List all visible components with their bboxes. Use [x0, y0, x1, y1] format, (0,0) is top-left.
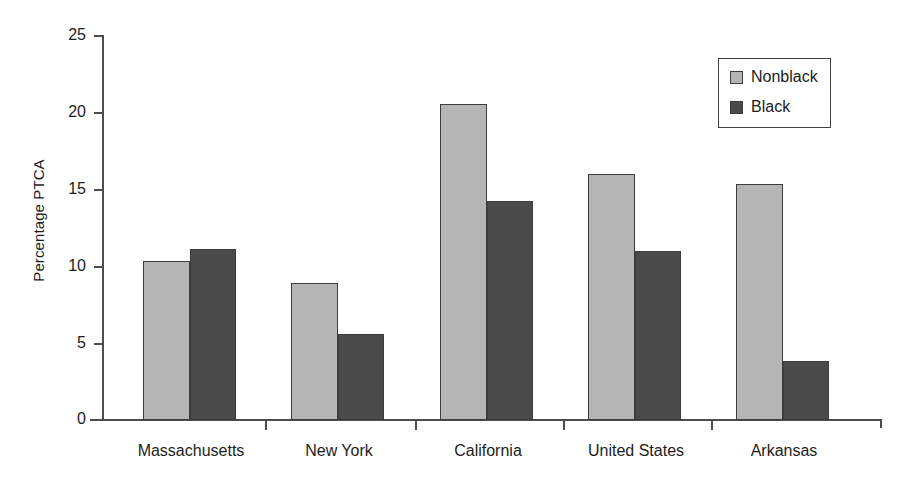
y-tick-label-5: 5: [48, 335, 86, 351]
y-tick-label-25: 25: [48, 27, 86, 43]
bar-california-black: [487, 201, 533, 420]
legend-item-black: Black: [730, 99, 790, 115]
legend-swatch-nonblack-icon: [730, 71, 743, 84]
y-tick-10: [94, 266, 103, 268]
legend-item-nonblack: Nonblack: [730, 69, 818, 85]
x-label-massachusetts: Massachusetts: [108, 442, 274, 460]
legend-label-black: Black: [751, 99, 790, 115]
x-tick-separator-1: [265, 421, 267, 430]
y-tick-label-10: 10: [48, 258, 86, 274]
x-tick-separator-2: [415, 421, 417, 430]
y-tick-5: [94, 343, 103, 345]
legend-swatch-black-icon: [730, 101, 743, 114]
x-label-new-york: New York: [256, 442, 422, 460]
legend-label-nonblack: Nonblack: [751, 69, 818, 85]
x-tick-separator-3: [563, 421, 565, 430]
y-tick-0: [90, 419, 103, 421]
y-tick-15: [94, 189, 103, 191]
bar-california-nonblack: [440, 104, 487, 420]
bar-united-states-nonblack: [588, 174, 635, 420]
bar-new-york-black: [338, 334, 384, 420]
bar-massachusetts-nonblack: [143, 261, 190, 420]
bar-massachusetts-black: [190, 249, 236, 420]
y-tick-25: [94, 35, 103, 37]
bar-united-states-black: [635, 251, 681, 420]
y-axis-title: Percentage PTCA: [30, 121, 47, 321]
x-label-united-states: United States: [553, 442, 719, 460]
bar-arkansas-nonblack: [736, 184, 783, 420]
y-tick-label-20: 20: [48, 104, 86, 120]
x-tick-separator-4: [711, 421, 713, 430]
bar-new-york-nonblack: [291, 283, 338, 420]
bar-chart: Percentage PTCA 25 20 15 10 5 0 Massachu…: [0, 0, 905, 486]
x-label-california: California: [405, 442, 571, 460]
y-tick-label-15: 15: [48, 181, 86, 197]
x-label-arkansas: Arkansas: [701, 442, 867, 460]
bar-arkansas-black: [783, 361, 829, 420]
x-axis-end-tick: [880, 419, 882, 428]
y-tick-20: [94, 112, 103, 114]
y-tick-label-0: 0: [48, 411, 86, 427]
legend: Nonblack Black: [718, 58, 831, 128]
